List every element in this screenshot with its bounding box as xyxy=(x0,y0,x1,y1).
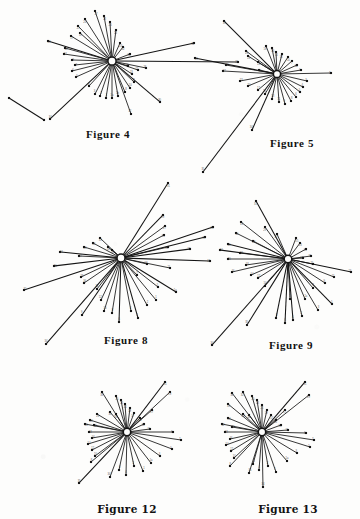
ray-line xyxy=(123,262,147,305)
ray-line xyxy=(126,436,127,474)
ray-label: 8 xyxy=(112,308,114,312)
ray: 31 xyxy=(116,42,195,60)
ray-line xyxy=(80,435,125,483)
ray: 1 xyxy=(128,436,145,472)
ray: 3 xyxy=(281,75,308,82)
ray-label: 10 xyxy=(233,454,236,458)
ray-endpoint-marker xyxy=(292,319,294,321)
ray-endpoint-marker xyxy=(99,95,101,97)
ray-line xyxy=(124,261,156,299)
hub-node xyxy=(273,70,280,77)
ray-label: 10 xyxy=(129,83,132,87)
ray-label: 1 xyxy=(106,93,108,97)
ray: 27 xyxy=(275,233,287,255)
ray: 16 xyxy=(271,47,276,70)
ray-line xyxy=(281,73,330,74)
ray: 27 xyxy=(124,225,166,256)
ray-endpoint-marker xyxy=(261,404,263,406)
ray-endpoint-marker xyxy=(103,15,105,17)
ray-endpoint-marker xyxy=(109,21,111,23)
ray-endpoint-marker xyxy=(142,470,144,472)
scanned-figure-page: 272421191733141297653443211a1b8321011301… xyxy=(0,0,360,519)
ray-line xyxy=(262,436,263,486)
ray-line xyxy=(129,383,164,429)
ray-line xyxy=(125,258,209,261)
ray-endpoint-marker xyxy=(317,309,319,311)
ray-label: 2 xyxy=(300,311,302,315)
ray-line xyxy=(93,433,123,438)
ray-line xyxy=(119,262,121,321)
ray-endpoint-marker xyxy=(124,403,126,405)
ray-label: 31 xyxy=(164,382,167,386)
ray-endpoint-marker xyxy=(248,472,250,474)
ray-line xyxy=(131,429,149,431)
figure-5-caption: Figure 5 xyxy=(270,137,314,149)
ray-label: 10 xyxy=(104,306,107,310)
ray: 11 xyxy=(131,427,151,431)
ray-label: 19 xyxy=(265,411,268,415)
ray-label: 16 xyxy=(271,49,274,53)
ray-endpoint-marker xyxy=(275,471,277,473)
ray-label: 22 xyxy=(122,47,125,51)
ray-label: 32 xyxy=(128,109,131,113)
ray-label: 31 xyxy=(304,382,307,386)
ray-endpoint-marker xyxy=(242,391,244,393)
ray-line xyxy=(229,244,284,258)
ray: 2 xyxy=(281,71,332,75)
ray-line xyxy=(231,435,260,466)
ray-label: 31 xyxy=(167,184,170,188)
figure-8: 3129272533323028262422203518161434121089… xyxy=(23,182,214,345)
ray: 12 xyxy=(278,53,283,70)
ray: 12 xyxy=(257,261,285,279)
figure-13: 3129333230272826242220181614121083534642… xyxy=(221,381,315,488)
ray-label: 1 xyxy=(155,295,157,299)
ray-endpoint-marker xyxy=(290,100,292,102)
ray-endpoint-marker xyxy=(109,476,111,478)
ray-line xyxy=(213,262,286,344)
detached-segment xyxy=(8,97,45,121)
ray-label: 25 xyxy=(251,397,254,401)
hub-node xyxy=(117,254,125,262)
ray-endpoint-marker xyxy=(100,299,102,301)
ray-label: 6 xyxy=(118,317,120,321)
ray-endpoint-marker xyxy=(103,310,105,312)
ray: 35 xyxy=(201,77,274,173)
ray-endpoint-marker xyxy=(120,399,122,401)
ray-label: 13 xyxy=(271,94,274,98)
ray-line xyxy=(116,61,237,62)
hub-center xyxy=(286,257,290,261)
ray: 14 xyxy=(275,51,278,70)
ray-line xyxy=(266,228,286,256)
ray-label: 30 xyxy=(158,98,161,102)
ray-label: 4 xyxy=(259,465,261,469)
ray-label: 6 xyxy=(253,459,255,463)
ray-label: 21 xyxy=(261,406,264,410)
ray-endpoint-marker xyxy=(304,298,306,300)
ray-endpoint-marker xyxy=(289,298,291,300)
figure-13-caption: Figure 13 xyxy=(258,503,318,515)
ray-line xyxy=(72,36,109,58)
ray-label: 17 xyxy=(257,86,260,90)
ray-endpoint-marker xyxy=(271,98,273,100)
ray-line xyxy=(130,434,159,455)
ray-label: 4 xyxy=(292,315,294,319)
segment-endpoint-marker xyxy=(8,97,10,99)
ray-line xyxy=(259,261,285,277)
ray-label: 6 xyxy=(119,465,121,469)
ray: 27 xyxy=(94,10,111,57)
ray: 1a xyxy=(290,263,308,300)
ray-endpoint-marker xyxy=(276,233,278,235)
ray-label: 23 xyxy=(299,243,302,247)
ray-label: 25 xyxy=(114,31,117,35)
ray-endpoint-marker xyxy=(133,465,135,467)
ray-label: 2 xyxy=(147,300,149,304)
segment-endpoint-marker xyxy=(43,119,45,121)
ray-label: 1 xyxy=(143,466,145,470)
hub-center xyxy=(275,72,278,75)
figure-5: 3126243322292719232017153534131198654321… xyxy=(194,20,332,173)
ray: 1 xyxy=(124,261,158,301)
ray-endpoint-marker xyxy=(124,91,126,93)
ray-endpoint-marker xyxy=(94,93,96,95)
ray: 3 xyxy=(130,434,161,457)
figures-canvas: 272421191733141297653443211a1b8321011301… xyxy=(0,0,360,519)
